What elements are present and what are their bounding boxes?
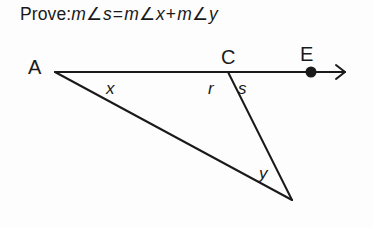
point-label-a: A [28, 57, 41, 77]
geometry-worksheet-figure: Prove:m∠s=m∠x+m∠y A C E x r s y [0, 0, 373, 228]
angle-label-s: s [238, 80, 247, 97]
point-label-e: E [300, 44, 313, 64]
point-label-c: C [221, 47, 235, 67]
angle-label-x: x [106, 80, 115, 97]
angle-label-r: r [208, 80, 214, 97]
angle-label-y: y [259, 165, 268, 182]
point-marker-e [306, 67, 317, 78]
geometry-diagram [0, 0, 373, 228]
segment-A-to-B [55, 72, 292, 200]
